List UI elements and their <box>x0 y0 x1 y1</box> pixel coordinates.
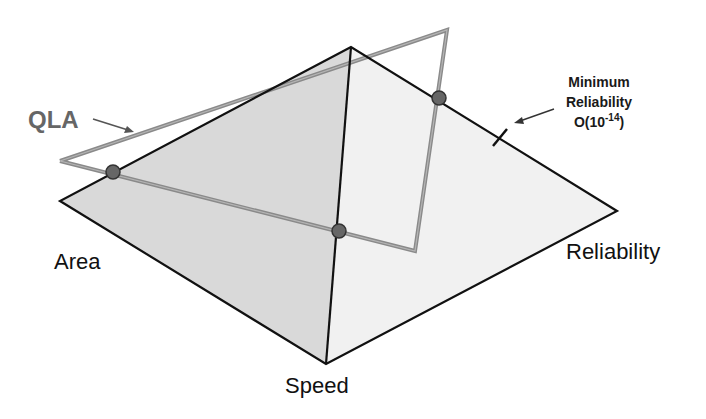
axis-label-area: Area <box>54 249 101 274</box>
qla-label: QLA <box>28 106 79 133</box>
left-face <box>60 47 351 364</box>
tradeoff-diagram: QLA Minimum Reliability O(10-14) Area Sp… <box>0 0 706 419</box>
axis-label-reliability: Reliability <box>566 239 660 264</box>
intersection-point-area <box>106 165 120 179</box>
annotation-line-1: Minimum <box>568 74 629 90</box>
intersection-point-reliability <box>432 91 446 105</box>
annotation-arrow-icon <box>514 109 554 124</box>
qla-arrow-icon <box>93 119 134 133</box>
annotation-line-3: O(10-14) <box>574 112 624 130</box>
axis-label-speed: Speed <box>285 373 349 398</box>
intersection-point-speed <box>332 224 346 238</box>
annotation-line-2: Reliability <box>566 94 632 110</box>
